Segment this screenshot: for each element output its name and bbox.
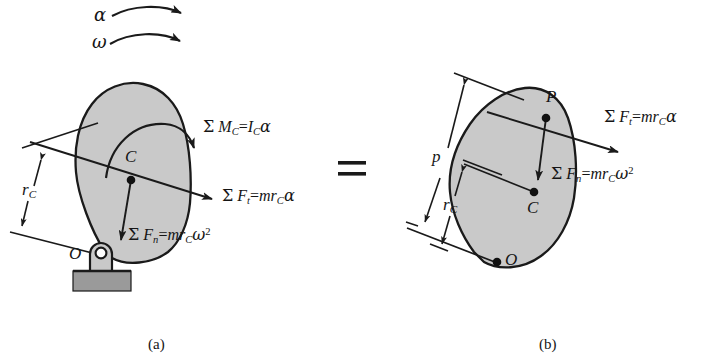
- sigma-symbol: Σ: [203, 117, 214, 136]
- panel-a-center-of-mass-label: C: [125, 148, 136, 165]
- panel-a-pivot-label: O: [69, 245, 81, 262]
- moment-subscript: C: [232, 126, 239, 137]
- omega-exponent: 2: [628, 165, 633, 176]
- omega-rotation-arrow: [110, 34, 180, 44]
- force-variable: F: [143, 226, 153, 243]
- panel-b-p-label: p: [432, 148, 441, 165]
- sigma-symbol: Σ: [551, 164, 562, 183]
- alpha-rotation-label: α: [94, 6, 106, 24]
- kinetic-diagram-figure: α ω C O rC Σ MC=ICα Σ Ft=mrCα Σ Fn=mrCω2…: [0, 0, 718, 363]
- panel-a-tangential-force-equation: Σ Ft=mrCα: [222, 188, 295, 207]
- panel-b-rc-label: rC: [443, 196, 457, 215]
- panel-a-pin-support: [90, 243, 112, 272]
- alpha-rotation-arrow: [112, 7, 181, 16]
- radius-subscript: C: [659, 116, 666, 127]
- panel-b-normal-force-equation: Σ Fn=mrCω2: [551, 166, 634, 185]
- panel-b-rc-subscript: C: [450, 203, 457, 215]
- radius-subscript: C: [277, 195, 284, 206]
- alpha-symbol: α: [666, 107, 677, 126]
- panel-b-p-symbol: p: [432, 147, 441, 166]
- force-variable: F: [566, 165, 576, 182]
- equals-operator: =: [632, 108, 641, 125]
- panel-b-pivot-dot: [493, 258, 502, 267]
- panel-b-center-of-mass-dot: [530, 188, 539, 197]
- omega-symbol: ω: [192, 225, 205, 244]
- mass-radius-term: mr: [641, 108, 659, 125]
- equals-operator: =: [239, 118, 248, 135]
- moment-variable: M: [218, 118, 231, 135]
- alpha-symbol: α: [284, 186, 295, 205]
- mass-radius-term: mr: [590, 165, 608, 182]
- panel-a-ground-block: [73, 271, 131, 291]
- mass-radius-term: mr: [167, 226, 185, 243]
- panel-a-center-of-mass-dot: [127, 176, 136, 185]
- panel-b-tangential-force-equation: Σ Ft=mrCα: [604, 109, 677, 128]
- panel-a-moment-equation: Σ MC=ICα: [203, 119, 271, 138]
- panel-a-caption: (a): [148, 337, 165, 352]
- panel-b-caption: (b): [539, 337, 557, 352]
- panel-a-rc-label: rC: [22, 181, 36, 200]
- panel-b-pivot-label: O: [505, 251, 517, 268]
- panel-a-rc-symbol: r: [22, 180, 29, 199]
- mass-radius-term: mr: [259, 187, 277, 204]
- panel-b-rc-symbol: r: [443, 195, 450, 214]
- omega-rotation-label: ω: [92, 33, 107, 51]
- omega-exponent: 2: [205, 226, 210, 237]
- force-variable: F: [619, 108, 629, 125]
- omega-symbol: ω: [615, 164, 628, 183]
- panel-b-percussion-point-label: P: [546, 88, 556, 105]
- sigma-symbol: Σ: [222, 186, 233, 205]
- panel-b-center-of-mass-label: C: [527, 199, 538, 216]
- panel-a-normal-force-equation: Σ Fn=mrCω2: [128, 227, 211, 246]
- sigma-symbol: Σ: [604, 107, 615, 126]
- alpha-symbol: α: [260, 117, 271, 136]
- panel-b-percussion-point-dot: [542, 114, 551, 123]
- panel-a-rc-subscript: C: [29, 188, 36, 200]
- sigma-symbol: Σ: [128, 225, 139, 244]
- equals-sign-glyph: [338, 161, 366, 176]
- force-variable: F: [237, 187, 247, 204]
- equals-operator: =: [250, 187, 259, 204]
